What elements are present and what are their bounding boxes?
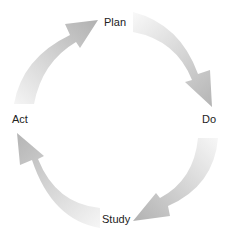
pdsa-cycle-diagram: [0, 0, 230, 234]
stage-label-study: Study: [102, 213, 130, 225]
stage-label-plan: Plan: [104, 16, 126, 28]
stage-label-act: Act: [12, 113, 28, 125]
arrow-plan-to-do: [133, 12, 212, 107]
arrow-do-to-study: [133, 138, 218, 221]
arrow-act-to-plan: [14, 20, 98, 104]
arrow-study-to-act: [17, 133, 100, 228]
stage-label-do: Do: [202, 113, 216, 125]
